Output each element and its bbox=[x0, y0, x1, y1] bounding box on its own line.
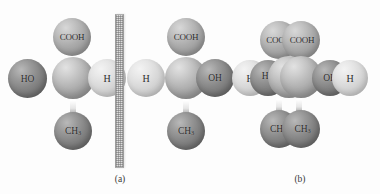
panel-b: COOH COOH H HO OH H CH3 CH3 (b bbox=[228, 0, 380, 194]
atom-label-b-h-far-right: H bbox=[346, 73, 353, 84]
atom-label-ch3-right: CH3 bbox=[178, 126, 194, 136]
atom-b-ch3-right: CH3 bbox=[282, 110, 320, 148]
atom-label-cooh-left: COOH bbox=[60, 32, 85, 42]
atom-ch3-left: CH3 bbox=[54, 112, 92, 150]
panel-a: COOH HO H CH3 COOH H OH bbox=[0, 0, 228, 194]
atom-label-ch3-left: CH3 bbox=[65, 126, 81, 136]
atom-label-b-ch3-right: CH3 bbox=[295, 124, 311, 134]
atom-oh-right: OH bbox=[196, 59, 234, 97]
atom-label-oh-right: OH bbox=[208, 73, 221, 83]
figure-enantiomers: COOH HO H CH3 COOH H OH bbox=[0, 0, 380, 194]
atom-ch3-right: CH3 bbox=[167, 112, 205, 150]
atom-b-cooh-right: COOH bbox=[282, 21, 320, 59]
atom-label-ho-left: HO bbox=[21, 74, 34, 84]
atom-cooh-left: COOH bbox=[53, 18, 91, 56]
atom-label-h-left: H bbox=[103, 73, 110, 84]
caption-b: (b) bbox=[278, 174, 322, 184]
mirror-plane bbox=[115, 14, 124, 168]
atom-h-right: H bbox=[127, 59, 165, 97]
atom-label-h-right: H bbox=[142, 73, 149, 84]
atom-ho-left: HO bbox=[8, 59, 47, 98]
caption-a: (a) bbox=[98, 174, 142, 184]
atom-cooh-right: COOH bbox=[167, 18, 205, 56]
atom-label-cooh-right: COOH bbox=[174, 32, 199, 42]
atom-label-b-cooh-right: COOH bbox=[290, 35, 315, 45]
atom-b-h-far-right: H bbox=[332, 60, 368, 96]
